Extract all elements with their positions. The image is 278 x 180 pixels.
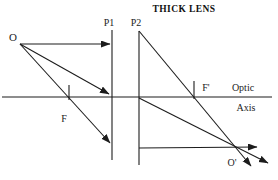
object-point-label: O: [9, 31, 17, 43]
principal-plane-1-label: P1: [104, 17, 115, 28]
ray-parallel-emergent: [139, 147, 257, 148]
ray-through-front-focus-incident: [20, 44, 110, 143]
ray-to-axis-point-incident: [20, 44, 109, 94]
optic-axis-label-word2: Axis: [237, 102, 256, 113]
optic-axis-label-word1: Optic: [232, 82, 255, 93]
diagram-title: THICK LENS: [153, 4, 216, 14]
thick-lens-figure: THICK LENS O P1 P2 F F' Optic Axis O': [0, 0, 278, 180]
image-point-label: O': [227, 157, 236, 168]
back-focal-point-label: F': [202, 82, 210, 93]
front-focal-point-label: F: [61, 113, 67, 124]
principal-plane-2-label: P2: [131, 17, 142, 28]
thick-lens-diagram: THICK LENS O P1 P2 F F' Optic Axis O': [0, 0, 278, 180]
